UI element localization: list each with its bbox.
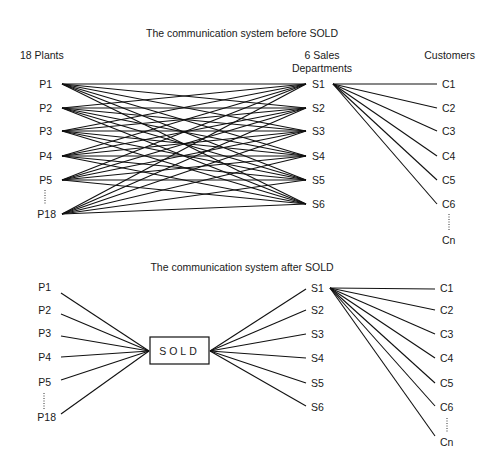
sold-hub: SOLD [150,337,209,364]
sales-label: S2 [312,102,325,114]
sales-label: S3 [311,328,324,340]
plant-label: P5 [38,376,51,388]
bottom-sales-column: S1 S2 S3 S4 S5 S6 [311,282,324,413]
customer-label: C1 [440,282,454,294]
customer-label: Cn [442,234,456,246]
bottom-plants-column: P1 P2 P3 P4 P5 P18 [37,281,56,423]
sold-label: SOLD [159,345,200,357]
customer-label: C1 [442,78,456,90]
sales-label: S5 [311,377,324,389]
customer-label: Cn [440,436,454,448]
plant-label: P18 [37,411,56,423]
customer-label: C3 [442,125,456,137]
plant-label: P5 [39,174,52,186]
sales-label: S2 [311,304,324,316]
bottom-customers-column: C1 C2 C3 C4 C5 C6 Cn [440,282,454,448]
plant-label: P2 [39,102,52,114]
bottom-connection-lines [61,288,435,436]
customer-label: C6 [442,198,456,210]
sales-header-line1: 6 Sales [304,49,339,61]
customer-label: C4 [442,150,456,162]
customer-label: C5 [440,377,454,389]
plant-label: P3 [39,125,52,137]
sales-header-line2: Departments [292,62,352,74]
top-connection-lines [62,84,437,214]
sales-label: S3 [312,125,325,137]
plant-label: P1 [38,281,51,293]
sales-label: S4 [311,352,324,364]
top-customers-column: C1 C2 C3 C4 C5 C6 Cn [442,78,456,246]
top-plants-column: P1 P2 P3 P4 P5 P18 [37,78,56,220]
sales-label: S4 [312,150,325,162]
bottom-title: The communication system after SOLD [150,261,334,273]
customers-header: Customers [424,49,475,61]
sales-label: S6 [312,198,325,210]
plant-label: P2 [38,304,51,316]
plant-label: P3 [38,327,51,339]
customer-label: C3 [440,328,454,340]
customer-label: C4 [440,352,454,364]
plant-label: P4 [38,351,51,363]
top-sales-column: S1 S2 S3 S4 S5 S6 [312,78,325,210]
sales-label: S6 [311,401,324,413]
plant-label: P18 [37,208,56,220]
plant-label: P4 [39,150,52,162]
communication-diagram: The communication system before SOLD 18 … [0,0,485,465]
customer-label: C5 [442,174,456,186]
sales-label: S1 [312,78,325,90]
customer-label: C2 [442,102,456,114]
plants-header: 18 Plants [20,49,64,61]
top-title: The communication system before SOLD [146,27,338,39]
sales-label: S1 [311,282,324,294]
sales-label: S5 [312,174,325,186]
plant-label: P1 [39,78,52,90]
customer-label: C2 [440,304,454,316]
customer-label: C6 [440,401,454,413]
